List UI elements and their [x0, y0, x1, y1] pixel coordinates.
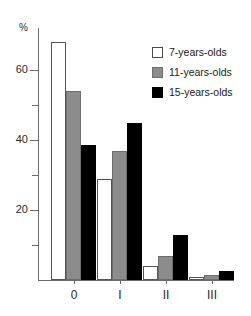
y-axis-tick-label-wrap: 40 [0, 140, 28, 141]
bar [97, 179, 112, 281]
y-axis-tick [32, 175, 38, 176]
bar [219, 271, 234, 280]
y-axis-tick-label: 20 [4, 203, 28, 215]
y-axis-tick-label-wrap: 60 [0, 70, 28, 71]
legend-swatch-icon [152, 67, 163, 78]
legend-item: 7-years-olds [152, 44, 233, 60]
x-axis-tick-label: I [100, 288, 140, 302]
x-axis-tick [212, 280, 213, 284]
bar [112, 151, 127, 281]
bar [189, 277, 204, 281]
bar-chart: % 604020 0IIIIII 7-years-olds 11-years-o… [0, 0, 251, 316]
y-axis-tick [30, 210, 38, 211]
legend-item: 15-years-olds [152, 84, 233, 100]
x-axis-tick [120, 280, 121, 284]
y-axis-tick [32, 245, 38, 246]
bar-group [51, 28, 96, 280]
legend-swatch-icon [152, 47, 163, 58]
y-axis-unit-label: % [19, 22, 28, 33]
x-axis-tick-label: III [192, 288, 232, 302]
x-axis-tick-label: II [146, 288, 186, 302]
legend-item-label: 11-years-olds [169, 66, 232, 78]
bar [51, 42, 66, 280]
bar [143, 266, 158, 280]
x-axis-tick [166, 280, 167, 284]
y-axis-tick-label: 60 [4, 63, 28, 75]
bar-group [97, 28, 142, 280]
y-axis-tick-label: 40 [4, 133, 28, 145]
bar [127, 123, 142, 281]
y-axis-tick-label-wrap: 20 [0, 210, 28, 211]
bar [173, 235, 188, 281]
y-axis-tick [32, 105, 38, 106]
legend-item-label: 15-years-olds [169, 86, 233, 98]
bar [81, 145, 96, 280]
x-axis-tick [74, 280, 75, 284]
y-axis-tick [30, 140, 38, 141]
x-axis-line [38, 280, 234, 281]
chart-legend: 7-years-olds 11-years-olds 15-years-olds [152, 44, 233, 104]
bar [158, 256, 173, 281]
legend-swatch-icon [152, 87, 163, 98]
legend-item: 11-years-olds [152, 64, 233, 80]
bar [66, 91, 81, 280]
legend-item-label: 7-years-olds [169, 46, 227, 58]
x-axis-tick-label: 0 [54, 288, 94, 302]
y-axis-tick [30, 70, 38, 71]
